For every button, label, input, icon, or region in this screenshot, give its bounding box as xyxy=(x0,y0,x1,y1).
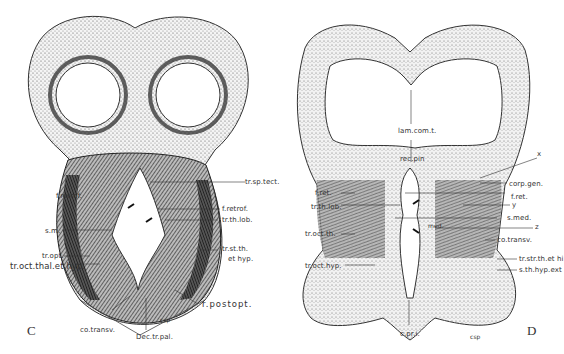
label-co-transv: co.transv. xyxy=(497,236,532,244)
brain-section-d-drawing xyxy=(275,0,547,354)
label-dec-tr-pal: Dec.tr.pal. xyxy=(136,333,173,341)
label-tr-opt: tr.opt. xyxy=(42,252,64,260)
artist-signature: csp xyxy=(160,316,171,324)
label-f-retrof-right: f.retrof. xyxy=(222,205,248,213)
label-tr-oct-thal-et-hyp: tr.oct.thal.et hyp. xyxy=(10,262,85,270)
panel-d: lam.com.t. rec.pin x f.ret. tr.th.lob. t… xyxy=(275,0,547,354)
artist-signature: csp xyxy=(470,333,481,341)
label-f-ret-left: f.ret. xyxy=(315,189,332,197)
label-f-retrof-left: f.retrof. xyxy=(56,192,82,200)
panel-letter-d: D xyxy=(527,323,536,339)
label-rec-pin: rec.pin xyxy=(400,155,425,163)
label-co-transv: co.transv. xyxy=(80,326,115,334)
label-tr-oct-th: tr.oct.th. xyxy=(305,230,336,238)
label-z: z xyxy=(535,223,539,231)
label-f-ret-right: f.ret. xyxy=(511,193,528,201)
label-y: y xyxy=(512,201,516,209)
label-c-pr-i: c.pr.i. xyxy=(400,330,420,338)
label-et-hyp: et hyp. xyxy=(228,255,253,263)
label-corp-gen: corp.gen. xyxy=(509,180,543,188)
label-tr-str-th-et-hi: tr.str.th.et hi xyxy=(519,255,564,263)
label-s-med: s.med. xyxy=(507,214,531,222)
label-s-m: s.m. xyxy=(45,227,60,235)
label-lam-com-t: lam.com.t. xyxy=(398,127,436,135)
label-r-postopt: r.postopt. xyxy=(202,300,252,308)
label-s-th-hyp-ext: s.th.hyp.ext xyxy=(519,266,562,274)
label-tr-th-lob: tr.th.lob. xyxy=(311,203,342,211)
panel-c: tr.sp.tect. f.retrof. f.retrof. tr.th.lo… xyxy=(0,0,275,354)
panel-letter-c: C xyxy=(27,323,36,339)
label-tr-oct-hyp: tr.oct.hyp. xyxy=(305,262,342,270)
label-tr-st-th: tr.st.th. xyxy=(222,245,248,253)
label-x: x xyxy=(537,150,541,158)
label-med: med. xyxy=(428,222,444,230)
label-tr-th-lob: tr.th.lob. xyxy=(222,216,253,224)
